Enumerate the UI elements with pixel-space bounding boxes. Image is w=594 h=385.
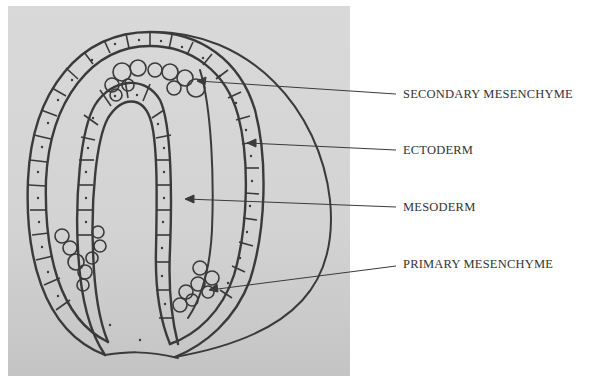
label-secondary-mesenchyme: SECONDARY MESENCHYME <box>403 87 573 102</box>
primary-mesenchyme-cluster-right <box>173 261 219 312</box>
leader-lines <box>185 77 396 292</box>
label-primary-mesenchyme: PRIMARY MESENCHYME <box>403 257 553 272</box>
gastrula-diagram <box>0 0 594 385</box>
ectoderm-outer-edge <box>28 32 264 357</box>
ectoderm-inner-edge <box>46 46 246 344</box>
label-ectoderm: ECTODERM <box>403 143 473 158</box>
label-mesoderm: MESODERM <box>403 200 475 215</box>
blastopore <box>105 352 178 358</box>
cell-nuclei <box>37 39 253 341</box>
